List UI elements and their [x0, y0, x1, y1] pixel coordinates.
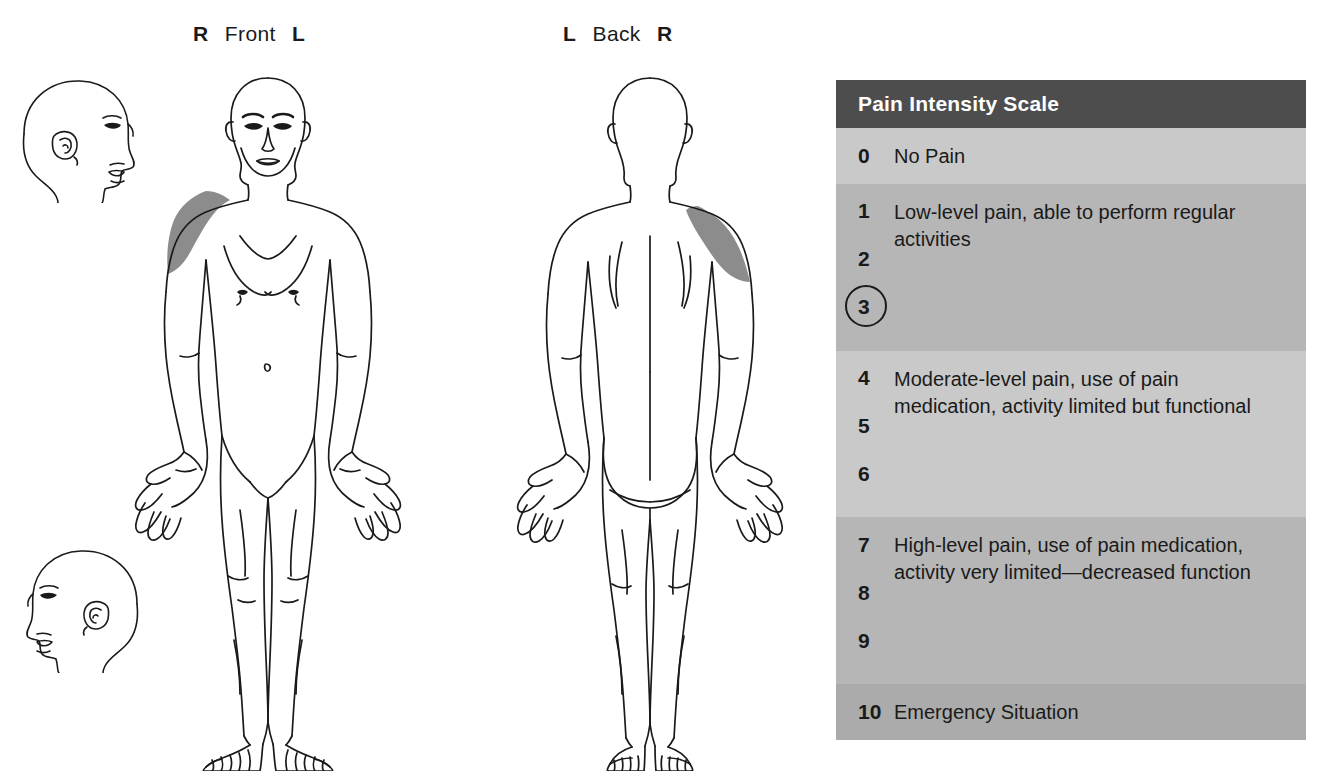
- scale-number-selected[interactable]: 3: [858, 294, 894, 320]
- back-view-name: Back: [592, 22, 640, 45]
- scale-rows-container: 0No Pain123Low-level pain, able to perfo…: [836, 128, 1306, 740]
- front-right-marker: L: [292, 22, 305, 45]
- front-left-marker: R: [193, 22, 209, 45]
- scale-number-column: 456: [836, 365, 894, 504]
- scale-number[interactable]: 9: [858, 627, 894, 653]
- scale-number[interactable]: 0: [858, 142, 894, 168]
- scale-number-column: 10: [836, 698, 894, 726]
- scale-number[interactable]: 7: [858, 531, 894, 557]
- scale-description: Moderate-level pain, use of pain medicat…: [894, 365, 1306, 504]
- front-body-figure[interactable]: [88, 60, 448, 771]
- scale-description: Emergency Situation: [894, 698, 1306, 726]
- scale-number[interactable]: 1: [858, 198, 894, 224]
- front-view-name: Front: [225, 22, 276, 45]
- scale-number-column: 789: [836, 531, 894, 670]
- pain-intensity-scale-panel: Pain Intensity Scale 0No Pain123Low-leve…: [836, 80, 1306, 740]
- scale-number[interactable]: 5: [858, 413, 894, 439]
- scale-description: No Pain: [894, 142, 1306, 170]
- scale-number[interactable]: 2: [858, 246, 894, 272]
- back-right-marker: R: [657, 22, 673, 45]
- scale-group[interactable]: 456Moderate-level pain, use of pain medi…: [836, 351, 1306, 518]
- scale-description: Low-level pain, able to perform regular …: [894, 198, 1306, 337]
- back-view-label: L Back R: [563, 22, 673, 46]
- pain-region-front-right-shoulder: [167, 191, 230, 274]
- front-view-label: R Front L: [193, 22, 305, 46]
- scale-number[interactable]: 6: [858, 461, 894, 487]
- scale-number[interactable]: 10: [858, 698, 894, 724]
- scale-description: High-level pain, use of pain medication,…: [894, 531, 1306, 670]
- back-left-marker: L: [563, 22, 576, 45]
- scale-group[interactable]: 0No Pain: [836, 128, 1306, 184]
- page-caption: [40, 0, 740, 4]
- scale-number[interactable]: 8: [858, 579, 894, 605]
- scale-number-column: 0: [836, 142, 894, 170]
- back-body-figure[interactable]: [470, 60, 830, 771]
- scale-number[interactable]: 4: [858, 365, 894, 391]
- scale-group[interactable]: 10Emergency Situation: [836, 684, 1306, 740]
- scale-panel-title: Pain Intensity Scale: [836, 80, 1306, 128]
- scale-group[interactable]: 789High-level pain, use of pain medicati…: [836, 517, 1306, 684]
- scale-number-column: 123: [836, 198, 894, 337]
- scale-group[interactable]: 123Low-level pain, able to perform regul…: [836, 184, 1306, 351]
